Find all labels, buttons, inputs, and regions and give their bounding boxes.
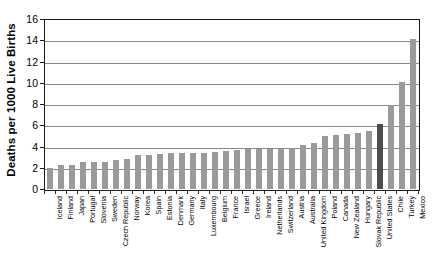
x-tick-mark	[154, 190, 155, 194]
bar	[245, 149, 251, 189]
bar	[91, 162, 97, 189]
x-ticks-layer	[44, 190, 418, 195]
x-tick-mark	[363, 190, 364, 194]
x-tick-mark	[176, 190, 177, 194]
bar	[399, 82, 405, 189]
x-tick-mark	[242, 190, 243, 194]
x-tick-mark	[231, 190, 232, 194]
y-tick-mark	[40, 83, 44, 84]
bar	[80, 162, 86, 189]
y-tick-mark	[40, 62, 44, 63]
x-tick-mark	[132, 190, 133, 194]
x-tick-mark	[396, 190, 397, 194]
bar	[234, 150, 240, 189]
x-tick-mark	[99, 190, 100, 194]
x-axis-label: Mexico	[416, 196, 430, 219]
bar	[168, 153, 174, 189]
bar	[355, 133, 361, 189]
bar	[102, 162, 108, 189]
x-tick-mark	[209, 190, 210, 194]
y-tick-mark	[40, 189, 44, 190]
x-tick-mark	[165, 190, 166, 194]
x-tick-mark	[66, 190, 67, 194]
x-tick-mark	[220, 190, 221, 194]
x-tick-mark	[374, 190, 375, 194]
x-tick-mark	[198, 190, 199, 194]
bar	[267, 149, 273, 189]
x-tick-mark	[407, 190, 408, 194]
bar	[223, 151, 229, 189]
bar	[135, 155, 141, 189]
bar	[212, 152, 218, 189]
x-tick-mark	[319, 190, 320, 194]
bar	[311, 143, 317, 189]
x-tick-mark	[352, 190, 353, 194]
infant-mortality-bar-chart: Deaths per 1000 Live Births IcelandFinla…	[0, 0, 446, 269]
bar	[410, 39, 416, 189]
bar	[47, 168, 53, 189]
bar	[278, 149, 284, 189]
y-tick-mark	[40, 125, 44, 126]
y-tick-mark	[40, 168, 44, 169]
bar	[377, 124, 383, 189]
y-tick-mark	[40, 104, 44, 105]
x-tick-mark	[418, 190, 419, 194]
x-tick-mark	[110, 190, 111, 194]
y-tick-mark	[40, 19, 44, 20]
x-tick-mark	[385, 190, 386, 194]
bars-layer	[44, 19, 418, 189]
bar	[69, 165, 75, 189]
y-tick-label: 4	[4, 141, 38, 153]
bar	[190, 153, 196, 189]
x-tick-mark	[264, 190, 265, 194]
bar	[201, 153, 207, 189]
bar	[58, 165, 64, 189]
x-tick-mark	[341, 190, 342, 194]
bar	[300, 145, 306, 189]
x-tick-mark	[297, 190, 298, 194]
x-tick-mark	[44, 190, 45, 194]
x-tick-mark	[330, 190, 331, 194]
x-tick-mark	[286, 190, 287, 194]
bar	[113, 160, 119, 189]
y-tick-label: 6	[4, 119, 38, 131]
x-tick-mark	[143, 190, 144, 194]
y-tick-label: 14	[4, 34, 38, 46]
bar	[322, 136, 328, 189]
bar	[366, 131, 372, 189]
bar	[289, 148, 295, 189]
bar	[388, 105, 394, 189]
y-tick-mark	[40, 40, 44, 41]
bar	[179, 153, 185, 189]
x-tick-mark	[77, 190, 78, 194]
y-tick-label: 0	[4, 183, 38, 195]
bar	[157, 154, 163, 189]
bar	[344, 134, 350, 189]
x-tick-mark	[253, 190, 254, 194]
bar	[146, 155, 152, 189]
y-tick-label: 16	[4, 13, 38, 25]
x-tick-mark	[88, 190, 89, 194]
x-axis-labels: IcelandFinlandJapanPortugalSloveniaSwede…	[44, 196, 418, 269]
y-tick-label: 8	[4, 98, 38, 110]
bar	[333, 135, 339, 189]
x-tick-mark	[55, 190, 56, 194]
y-tick-mark	[40, 147, 44, 148]
y-tick-label: 12	[4, 56, 38, 68]
x-tick-mark	[308, 190, 309, 194]
x-tick-mark	[187, 190, 188, 194]
bar	[256, 149, 262, 189]
y-tick-label: 10	[4, 77, 38, 89]
y-tick-label: 2	[4, 162, 38, 174]
bar	[124, 159, 130, 189]
x-tick-mark	[121, 190, 122, 194]
x-tick-mark	[275, 190, 276, 194]
